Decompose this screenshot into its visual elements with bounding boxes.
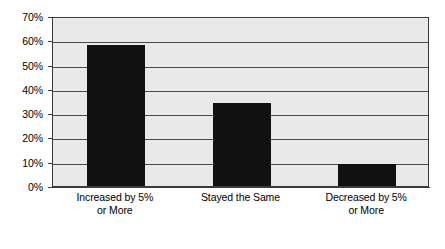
- y-tick-label: 40%: [22, 85, 43, 95]
- y-tick-label: 10%: [22, 158, 43, 168]
- y-axis-line: [52, 17, 53, 188]
- bar: [338, 164, 396, 186]
- x-category-label-line: or More: [303, 204, 429, 217]
- y-tick-label: 50%: [22, 61, 43, 71]
- bar: [213, 103, 271, 186]
- x-axis-line: [49, 187, 430, 188]
- x-category-label-line: Stayed the Same: [178, 191, 304, 204]
- plot-area: [52, 17, 429, 187]
- x-category-label: Stayed the Same: [178, 191, 304, 204]
- y-tick-label: 0%: [28, 182, 43, 192]
- x-category-label-line: Increased by 5%: [52, 191, 178, 204]
- y-tick-label: 20%: [22, 133, 43, 143]
- y-axis: 70%60%50%40%30%20%10%0%: [0, 0, 48, 249]
- y-tick-label: 70%: [22, 12, 43, 22]
- bar: [87, 45, 145, 186]
- y-tick-label: 30%: [22, 109, 43, 119]
- x-category-label: Increased by 5%or More: [52, 191, 178, 217]
- bars-group: [53, 18, 428, 186]
- bar-chart: 70%60%50%40%30%20%10%0% Increased by 5%o…: [0, 0, 445, 249]
- y-tick-label: 60%: [22, 36, 43, 46]
- x-category-label: Decreased by 5%or More: [303, 191, 429, 217]
- x-category-label-line: or More: [52, 204, 178, 217]
- x-category-label-line: Decreased by 5%: [303, 191, 429, 204]
- x-axis: Increased by 5%or MoreStayed the SameDec…: [52, 191, 429, 247]
